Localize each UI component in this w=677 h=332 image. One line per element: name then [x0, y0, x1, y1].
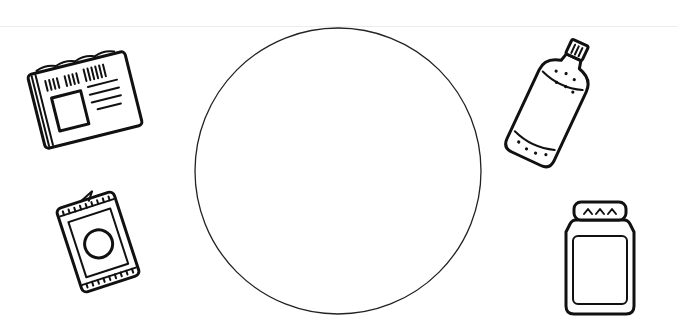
bottle-icon[interactable]	[503, 32, 604, 170]
sorting-circle[interactable]	[195, 28, 481, 314]
jar-icon[interactable]	[566, 202, 634, 314]
newspaper-icon[interactable]	[26, 47, 142, 149]
tin-can-icon[interactable]	[54, 185, 140, 293]
worksheet-canvas	[0, 0, 677, 332]
